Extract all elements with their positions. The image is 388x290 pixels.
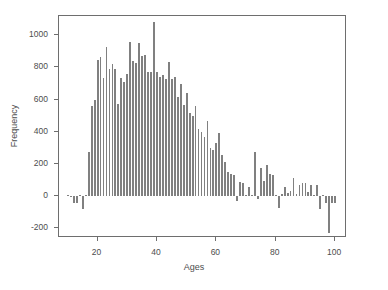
histogram-bar	[198, 129, 200, 197]
histogram-bar	[224, 162, 226, 196]
histogram-bar	[334, 196, 336, 202]
histogram-bar	[284, 187, 286, 196]
histogram-bar	[230, 174, 232, 197]
histogram-bar	[260, 168, 262, 196]
histogram-bar	[215, 143, 217, 196]
histogram-bar	[310, 185, 312, 196]
histogram-bar	[325, 196, 327, 202]
histogram-bar	[305, 183, 307, 196]
histogram-bar	[218, 133, 220, 197]
histogram-bar	[263, 181, 265, 196]
histogram-bar	[307, 192, 309, 196]
x-tick-label: 20	[92, 247, 101, 257]
x-tick-mark	[215, 237, 216, 241]
histogram-bar	[103, 78, 105, 196]
x-tick-mark	[97, 237, 98, 241]
y-tick-label: -200	[31, 222, 48, 232]
histogram-bar	[180, 84, 182, 197]
histogram-bar	[195, 106, 197, 196]
histogram-bar	[186, 93, 188, 196]
histogram-bar	[227, 172, 229, 196]
histogram-bar	[242, 183, 244, 197]
histogram-bar	[138, 43, 140, 197]
x-axis: Ages 20406080100	[0, 237, 388, 290]
y-tick-label: 1000	[29, 29, 48, 39]
histogram-bar	[183, 105, 185, 196]
histogram-bar	[106, 47, 108, 197]
histogram-bar	[331, 196, 333, 202]
histogram-bar	[73, 196, 75, 203]
x-axis-label: Ages	[0, 262, 388, 272]
histogram-bar	[82, 196, 84, 209]
histogram-bar	[254, 152, 256, 196]
x-tick-label: 40	[151, 247, 160, 257]
histogram-bar	[287, 193, 289, 196]
y-tick-label: 600	[34, 94, 48, 104]
histogram-bar	[112, 64, 114, 196]
histogram-bar	[85, 195, 87, 197]
histogram-bar	[171, 79, 173, 196]
histogram-bar	[174, 77, 176, 196]
histogram-bar	[266, 165, 268, 196]
histogram-bar	[201, 132, 203, 196]
x-tick-label: 80	[270, 247, 279, 257]
histogram-bar	[236, 196, 238, 201]
histogram-bar	[79, 195, 81, 196]
histogram-bar	[147, 72, 149, 197]
histogram-bar	[302, 183, 304, 196]
histogram-bar	[109, 69, 111, 196]
histogram-bar	[210, 148, 212, 196]
histogram-bar	[141, 56, 143, 196]
x-tick-label: 100	[327, 247, 341, 257]
histogram-bar	[281, 194, 283, 196]
histogram-bar	[150, 72, 152, 196]
histogram-bar	[189, 113, 191, 197]
x-tick-mark	[156, 237, 157, 241]
histogram-bar	[114, 69, 116, 196]
histogram-bar	[275, 195, 277, 196]
histogram-bar	[144, 55, 146, 197]
histogram-bar	[100, 57, 102, 196]
histogram-bar	[278, 196, 280, 208]
x-tick-label: 60	[211, 247, 220, 257]
histogram-bar	[70, 196, 72, 197]
y-tick-label: 400	[34, 126, 48, 136]
histogram-bar	[117, 104, 119, 196]
histogram-bar	[91, 106, 93, 196]
histogram-bar	[97, 60, 99, 196]
histogram-bar	[76, 196, 78, 202]
y-tick-label: 800	[34, 61, 48, 71]
histogram-bar	[272, 175, 274, 196]
histogram-bar	[123, 82, 125, 196]
histogram-bar	[322, 195, 324, 196]
histogram-bar	[165, 79, 167, 196]
histogram-bar	[129, 42, 131, 196]
histogram-bar	[67, 195, 69, 196]
histogram-bar	[132, 61, 134, 196]
histogram-bar	[239, 182, 241, 196]
histogram-figure: -20002004006008001000 Ages 20406080100 F…	[0, 0, 388, 290]
histogram-bar	[204, 137, 206, 196]
bars-layer	[59, 16, 345, 236]
histogram-bar	[221, 155, 223, 196]
histogram-bar	[177, 97, 179, 196]
plot-area	[58, 15, 346, 237]
histogram-bar	[120, 78, 122, 196]
histogram-bar	[159, 77, 161, 196]
histogram-bar	[233, 175, 235, 196]
histogram-bar	[156, 72, 158, 196]
histogram-bar	[94, 100, 96, 197]
histogram-bar	[88, 152, 90, 196]
histogram-bar	[251, 195, 253, 197]
histogram-bar	[153, 22, 155, 197]
histogram-bar	[126, 74, 128, 196]
histogram-bar	[316, 185, 318, 196]
histogram-bar	[319, 196, 321, 209]
histogram-bar	[162, 75, 164, 196]
histogram-bar	[168, 62, 170, 196]
x-tick-mark	[334, 237, 335, 241]
histogram-bar	[248, 187, 250, 197]
histogram-bar	[296, 194, 298, 196]
histogram-bar	[299, 185, 301, 196]
histogram-bar	[245, 195, 247, 197]
